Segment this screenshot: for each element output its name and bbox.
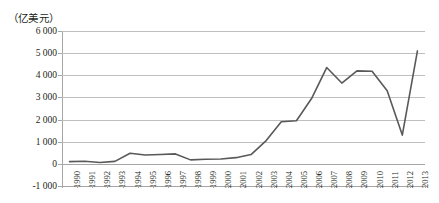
y-tick-label--1000: -1 000: [32, 181, 57, 191]
x-tick-mark-19: [349, 185, 350, 188]
x-tick-mark-8: [183, 185, 184, 188]
x-tick-mark-1: [77, 185, 78, 188]
x-tick-mark-14: [274, 185, 275, 188]
x-tick-mark-11: [228, 185, 229, 188]
plot-area: 6 0005 0004 0003 0002 0001 0000-1 000: [62, 31, 425, 186]
x-tick-mark-9: [198, 185, 199, 188]
y-tick-label-6000: 6 000: [36, 26, 57, 36]
x-tick-mark-3: [107, 185, 108, 188]
x-tick-mark-23: [410, 185, 411, 188]
y-tick-label-3000: 3 000: [36, 92, 57, 102]
data-series-line: [62, 31, 425, 186]
x-tick-mark-13: [259, 185, 260, 188]
x-tick-mark-end: [425, 185, 426, 188]
y-tick-label-2000: 2 000: [36, 115, 57, 125]
x-tick-mark-15: [289, 185, 290, 188]
x-tick-mark-18: [334, 185, 335, 188]
x-tick-mark-20: [365, 185, 366, 188]
chart-screenshot: （亿美元） 6 0005 0004 0003 0002 0001 0000-1 …: [0, 0, 439, 203]
x-tick-mark-12: [244, 185, 245, 188]
x-tick-mark-21: [380, 185, 381, 188]
y-tick-label-4000: 4 000: [36, 70, 57, 80]
y-axis-unit-caption: （亿美元）: [8, 13, 59, 25]
x-tick-mark-10: [213, 185, 214, 188]
y-tick-label-0: 0: [52, 159, 57, 169]
x-tick-mark-16: [304, 185, 305, 188]
x-tick-mark-17: [319, 185, 320, 188]
x-tick-mark-2: [92, 185, 93, 188]
series-polyline: [70, 51, 418, 163]
x-tick-mark-4: [123, 185, 124, 188]
x-axis-tick-labels: 1990199119921993199419951996199719981999…: [62, 188, 425, 203]
x-tick-mark-22: [395, 185, 396, 188]
y-tick-label-5000: 5 000: [36, 48, 57, 58]
x-tick-mark-6: [153, 185, 154, 188]
y-tick-label-1000: 1 000: [36, 137, 57, 147]
x-tick-mark-5: [138, 185, 139, 188]
x-tick-mark-7: [168, 185, 169, 188]
x-tick-mark-0: [62, 185, 63, 188]
